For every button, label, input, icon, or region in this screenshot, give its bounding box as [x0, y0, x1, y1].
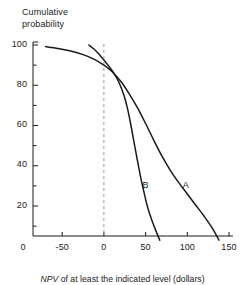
- y-tick-label-60: 60: [0, 119, 27, 129]
- y-tick-label-40: 40: [0, 159, 27, 169]
- x-axis-title: NPV of at least the indicated level (dol…: [0, 262, 245, 285]
- x-axis-title-italic: NPV: [40, 274, 58, 284]
- y-tick-label-80: 80: [0, 79, 27, 89]
- x-tick-label-0: 0: [91, 242, 117, 252]
- x-tick-label-50: 50: [133, 242, 159, 252]
- x-tick-label-100: 100: [174, 242, 200, 252]
- curve-A: [46, 47, 219, 241]
- x-origin-label: 0: [16, 242, 30, 252]
- data-curves: [46, 45, 219, 240]
- x-axis-title-rest: of at least the indicated level (dollars…: [58, 274, 204, 284]
- y-tick-label-20: 20: [0, 200, 27, 210]
- x-tick-label-150: 150: [216, 242, 242, 252]
- y-tick-label-100: 100: [0, 39, 27, 49]
- curve-label-B: B: [143, 180, 149, 190]
- curve-B: [89, 45, 160, 240]
- x-tick-label-neg50: -50: [49, 242, 75, 252]
- curve-label-A: A: [183, 180, 189, 190]
